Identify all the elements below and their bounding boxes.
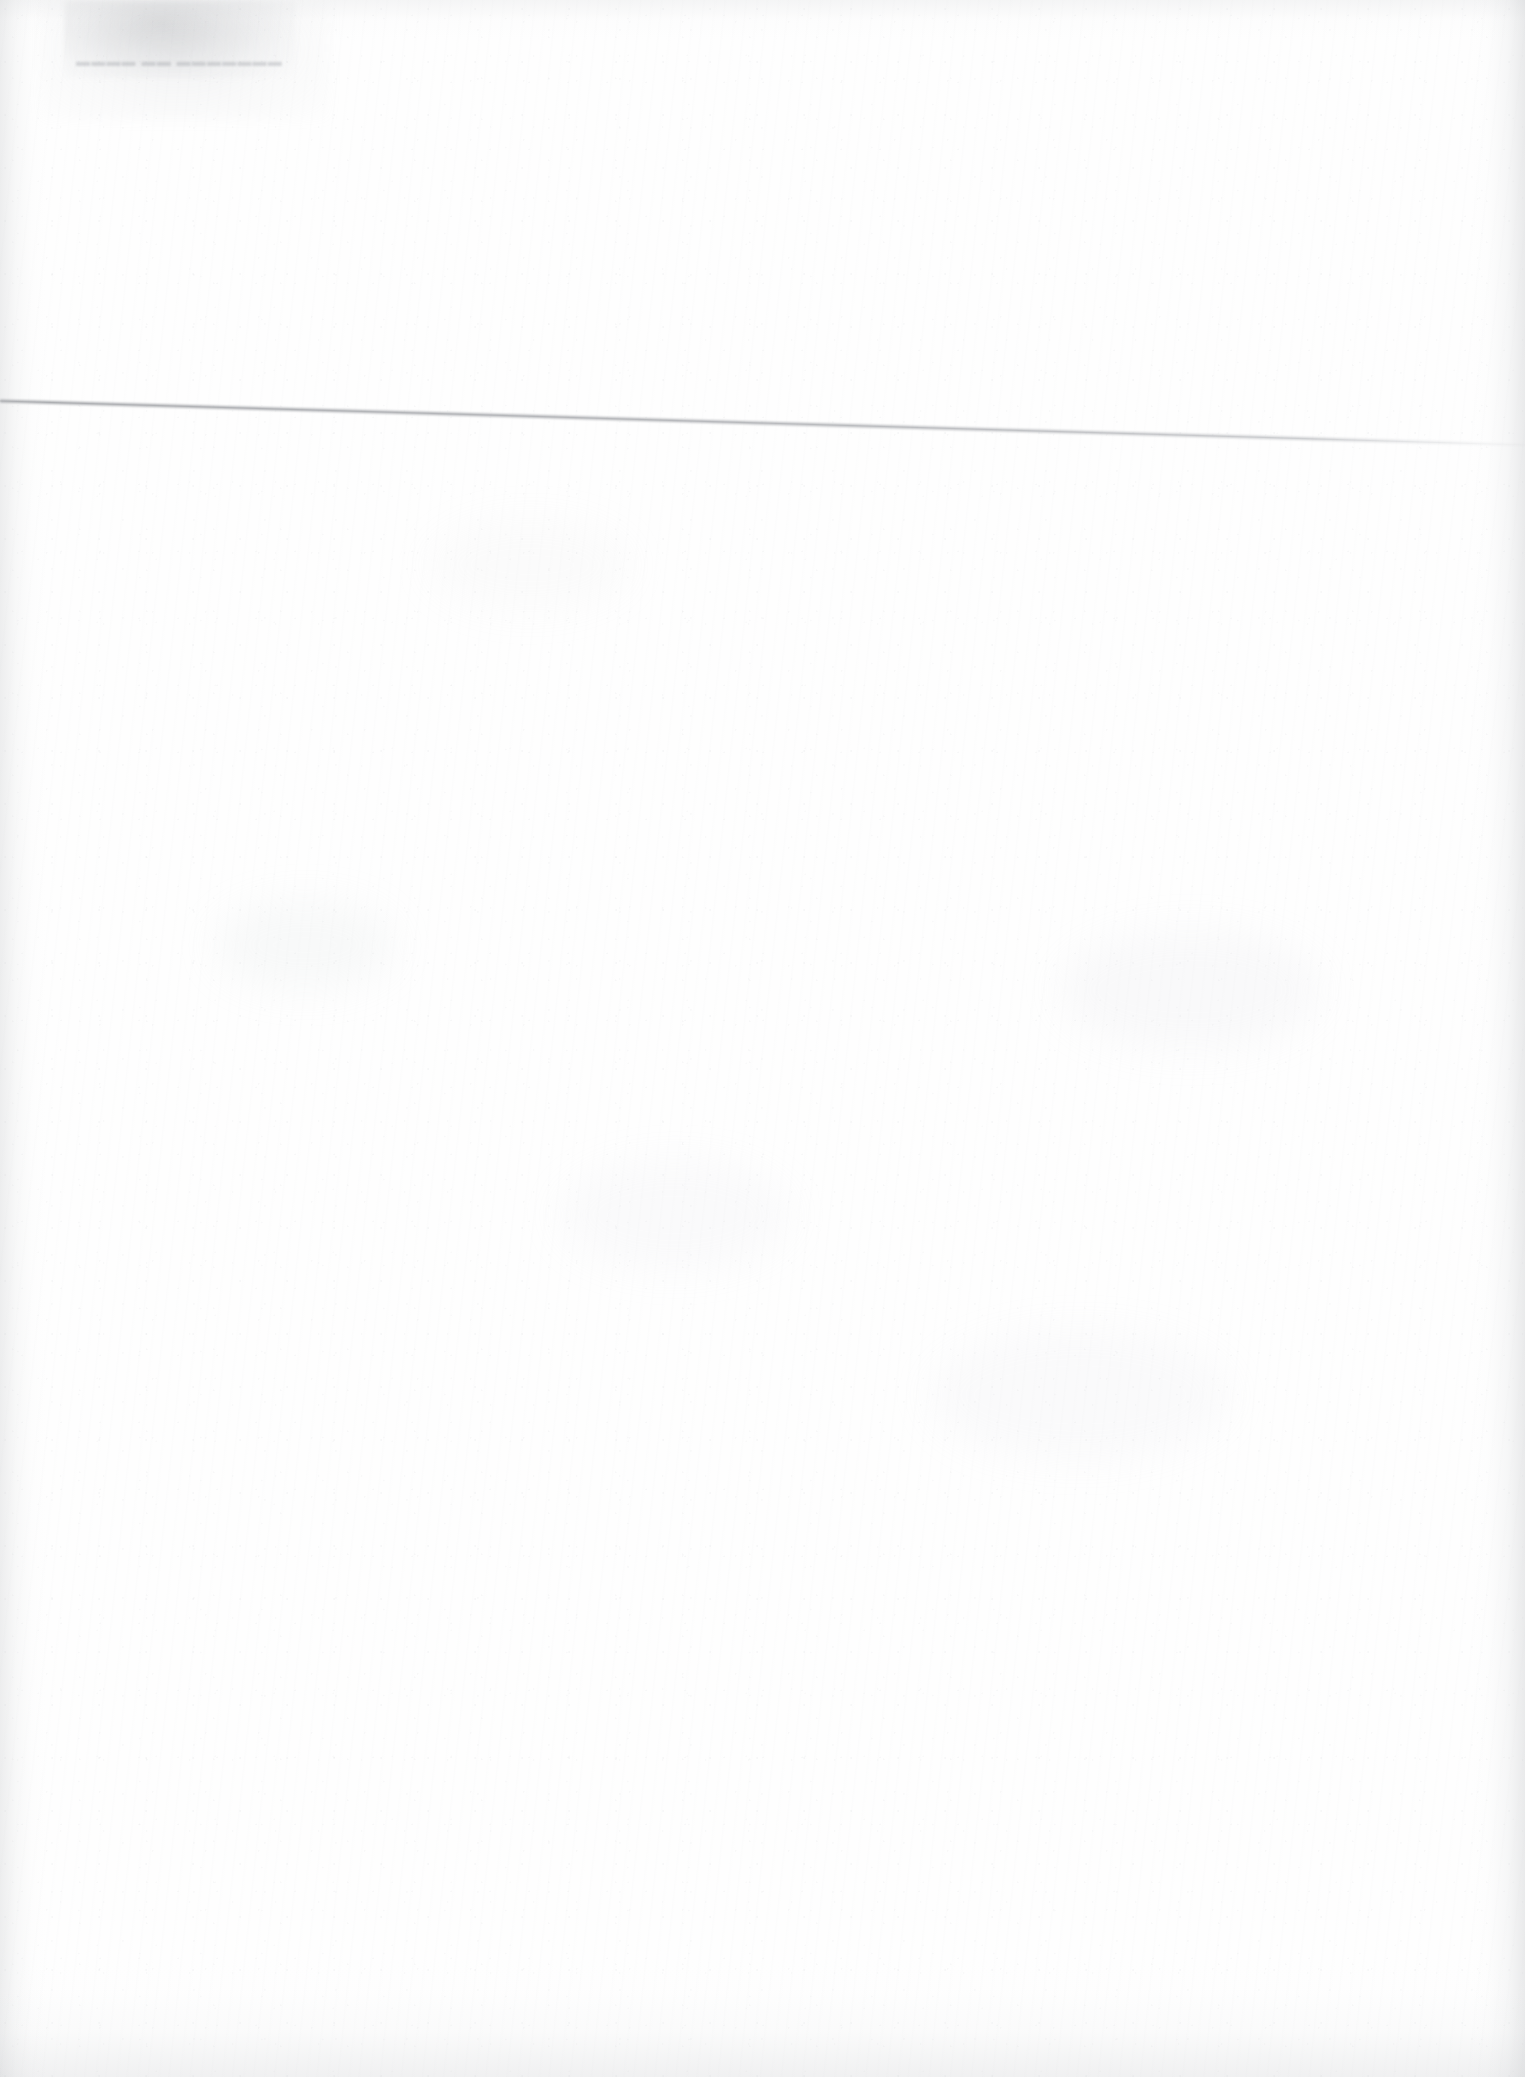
paper-background [0,0,1525,2077]
scanned-page: ▬▬▬▬ ▬▬ ▬▬▬▬▬▬▬ [0,0,1525,2077]
